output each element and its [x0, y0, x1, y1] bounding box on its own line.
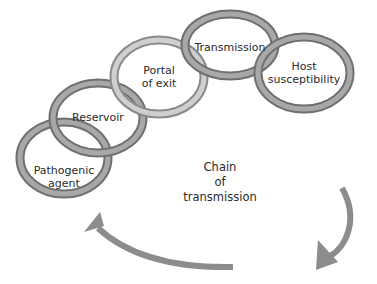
label-reservoir: Reservoir — [54, 111, 142, 124]
cycle-arrow-bottom — [84, 212, 233, 267]
label-portal-of-exit: Portal of exit — [115, 64, 203, 90]
label-line: agent — [20, 177, 108, 190]
label-host-susceptibility: Host susceptibility — [258, 60, 350, 86]
label-line: Reservoir — [54, 111, 142, 124]
label-line: of exit — [115, 77, 203, 90]
label-line: Transmission — [186, 41, 274, 54]
label-line: Portal — [115, 64, 203, 77]
cycle-arrow-right — [316, 188, 350, 270]
label-pathogenic-agent: Pathogenic agent — [20, 164, 108, 190]
center-label-chain-of-transmission: Chain of transmission — [180, 160, 260, 205]
center-label-line: transmission — [180, 190, 260, 205]
label-transmission: Transmission — [186, 41, 274, 54]
label-line: susceptibility — [258, 73, 350, 86]
center-label-line: Chain — [180, 160, 260, 175]
label-line: Pathogenic — [20, 164, 108, 177]
center-label-line: of — [180, 175, 260, 190]
label-line: Host — [258, 60, 350, 73]
